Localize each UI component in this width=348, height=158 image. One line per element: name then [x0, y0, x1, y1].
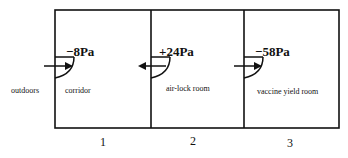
- outdoors-label: outdoors: [11, 86, 39, 95]
- room-label-2: air-lock room: [166, 84, 210, 93]
- room-label-3: vaccine yield room: [257, 87, 319, 96]
- room-number-3: 3: [287, 136, 293, 150]
- room-label-1: corridor: [65, 86, 91, 95]
- airflow-arrow-right-icon: [44, 62, 73, 70]
- airflow-arrow-right-icon: [234, 62, 262, 70]
- pressure-diagram: −8Pa +24Pa −58Pa outdoors corridor air-l…: [0, 0, 348, 158]
- pressure-room-1: −8Pa: [66, 44, 95, 59]
- pressure-room-2: +24Pa: [159, 44, 194, 59]
- walls: [55, 10, 339, 128]
- door-corridor-airlock: [151, 57, 170, 78]
- room-number-2: 2: [190, 134, 196, 148]
- pressure-room-3: −58Pa: [255, 44, 290, 59]
- room-number-1: 1: [100, 135, 106, 149]
- door-outdoors-corridor: [55, 57, 74, 78]
- building-outline: [55, 10, 339, 128]
- airflow-arrow-left-icon: [138, 62, 166, 70]
- door-airlock-vaccine: [244, 57, 263, 78]
